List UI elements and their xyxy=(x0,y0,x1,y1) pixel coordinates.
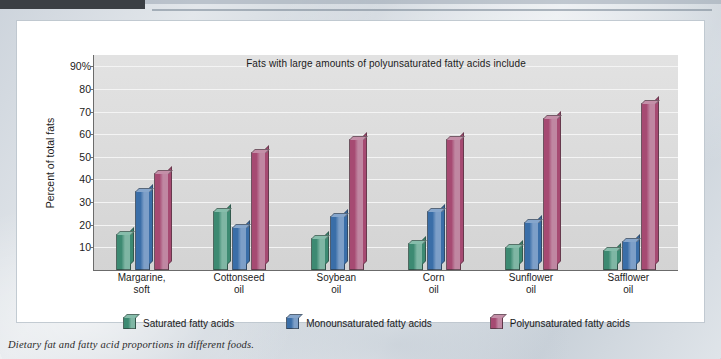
x-axis-category-line: oil xyxy=(190,284,287,296)
legend-swatch-top-face xyxy=(286,314,303,318)
page-top-light-strip xyxy=(145,0,721,4)
bar-slot xyxy=(154,173,169,270)
y-axis-tick-mark xyxy=(90,157,94,158)
bar[interactable] xyxy=(135,191,150,270)
bar-group xyxy=(483,55,580,270)
y-axis-title: Percent of total fats xyxy=(43,55,57,270)
plot-area: Fats with large amounts of polyunsaturat… xyxy=(93,55,678,271)
bar-slot xyxy=(330,216,345,270)
y-axis-tick-mark xyxy=(90,89,94,90)
bar-slot xyxy=(622,241,637,270)
x-axis-category-line: Safflower xyxy=(580,272,677,284)
chart-title: Fats with large amounts of polyunsaturat… xyxy=(94,58,678,69)
legend-label: Saturated fatty acids xyxy=(143,318,234,329)
bar-side-face xyxy=(227,204,231,265)
bar[interactable] xyxy=(213,211,228,270)
x-axis-category-label: Cottonseedoil xyxy=(190,272,287,295)
legend-swatch xyxy=(490,317,503,329)
x-axis-category-line: oil xyxy=(482,284,579,296)
bar[interactable] xyxy=(603,250,618,270)
legend-swatch-top-face xyxy=(490,314,507,318)
page-top-rule xyxy=(152,9,712,11)
bar-slot xyxy=(251,152,266,270)
bar-side-face xyxy=(265,145,269,265)
figure-caption: Dietary fat and fatty acid proportions i… xyxy=(8,339,254,350)
bar-slot xyxy=(524,222,539,270)
bar-group xyxy=(386,55,483,270)
bar-top-face xyxy=(603,247,622,251)
bar[interactable] xyxy=(311,238,326,270)
bar-side-face xyxy=(655,96,659,265)
x-axis-category-label: Saffloweroil xyxy=(580,272,677,295)
bar-group xyxy=(94,55,191,270)
bar[interactable] xyxy=(408,243,423,270)
x-axis-category-line: oil xyxy=(580,284,677,296)
bar-slot xyxy=(349,139,364,270)
bar-group xyxy=(581,55,678,270)
bar-slot xyxy=(116,234,131,270)
x-axis-category-line: Cottonseed xyxy=(190,272,287,284)
x-axis-category-label: Sunfloweroil xyxy=(482,272,579,295)
bar-slot xyxy=(311,238,326,270)
legend-swatch-top-face xyxy=(123,314,140,318)
bar-side-face xyxy=(557,111,561,265)
legend-label: Monounsaturated fatty acids xyxy=(306,318,432,329)
legend-swatch xyxy=(286,317,299,329)
legend-item[interactable]: Polyunsaturated fatty acids xyxy=(490,317,630,329)
bar-slot xyxy=(427,211,442,270)
y-axis-tick-mark xyxy=(90,134,94,135)
bar-slot xyxy=(446,139,461,270)
page-top-dark-strip xyxy=(0,0,145,9)
bar-side-face xyxy=(460,132,464,265)
bar[interactable] xyxy=(349,139,364,270)
bar[interactable] xyxy=(543,118,558,270)
bar-slot xyxy=(232,227,247,270)
bar-group-bars xyxy=(94,55,191,270)
y-axis-tick-mark xyxy=(90,247,94,248)
bar-slot xyxy=(603,250,618,270)
bar[interactable] xyxy=(641,103,656,270)
bar-slot xyxy=(408,243,423,270)
bar[interactable] xyxy=(154,173,169,270)
bar-top-face xyxy=(641,100,660,104)
legend-item[interactable]: Saturated fatty acids xyxy=(123,317,234,329)
bar[interactable] xyxy=(330,216,345,270)
bar-side-face xyxy=(617,243,621,265)
bar[interactable] xyxy=(446,139,461,270)
x-axis-category-line: Margarine, xyxy=(93,272,190,284)
bar-slot xyxy=(641,103,656,270)
legend-item[interactable]: Monounsaturated fatty acids xyxy=(286,317,432,329)
y-axis-tick-mark xyxy=(90,202,94,203)
bar-slot xyxy=(543,118,558,270)
chart-legend: Saturated fatty acidsMonounsaturated fat… xyxy=(93,317,693,329)
bar-group xyxy=(191,55,288,270)
bar-group-bars xyxy=(581,55,678,270)
bar[interactable] xyxy=(622,241,637,270)
bar[interactable] xyxy=(251,152,266,270)
y-axis-tick-mark xyxy=(90,112,94,113)
bar-side-face xyxy=(363,132,367,265)
x-axis-category-line: oil xyxy=(385,284,482,296)
x-axis-category-labels: Margarine,softCottonseedoilSoybeanoilCor… xyxy=(93,272,677,295)
x-axis-category-label: Cornoil xyxy=(385,272,482,295)
bar-side-face xyxy=(441,204,445,265)
x-axis-category-line: Soybean xyxy=(288,272,385,284)
bar-slot xyxy=(213,211,228,270)
y-axis-tick-mark xyxy=(90,179,94,180)
bar-group-bars xyxy=(289,55,386,270)
legend-label: Polyunsaturated fatty acids xyxy=(510,318,630,329)
x-axis-category-line: soft xyxy=(93,284,190,296)
legend-swatch xyxy=(123,317,136,329)
y-axis-tick-label: 90% xyxy=(70,60,91,72)
bar[interactable] xyxy=(116,234,131,270)
bar[interactable] xyxy=(524,222,539,270)
y-axis-title-label: Percent of total fats xyxy=(44,117,56,207)
bar-group-bars xyxy=(483,55,580,270)
bar[interactable] xyxy=(505,247,520,270)
bar-group xyxy=(289,55,386,270)
bar[interactable] xyxy=(232,227,247,270)
bar[interactable] xyxy=(427,211,442,270)
x-axis-category-label: Margarine,soft xyxy=(93,272,190,295)
bar-group-bars xyxy=(191,55,288,270)
bar-side-face xyxy=(344,209,348,265)
